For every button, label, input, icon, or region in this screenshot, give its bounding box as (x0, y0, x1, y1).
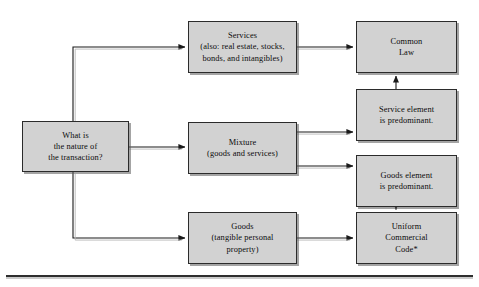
node-common-law-label: Common Law (388, 36, 426, 58)
edge-mixture-to-goods-element (297, 166, 353, 168)
node-goods[interactable]: Goods (tangible personal property) (188, 212, 297, 264)
node-services-label: Services (also: real estate, stocks, bon… (197, 30, 287, 63)
node-common-law[interactable]: Common Law (356, 21, 457, 73)
node-question-label: What is the nature of the transaction? (45, 130, 105, 163)
node-services[interactable]: Services (also: real estate, stocks, bon… (188, 21, 297, 73)
edge-mixture-to-service-element (297, 132, 353, 134)
flowchart-page: What is the nature of the transaction? S… (0, 0, 479, 287)
edge-question-to-goods (73, 172, 185, 240)
edge-question-to-services (73, 47, 185, 121)
node-service-element-label: Service element is predominant. (376, 104, 437, 126)
edge-question-to-mixture (129, 147, 185, 149)
node-question[interactable]: What is the nature of the transaction? (22, 121, 129, 172)
node-ucc[interactable]: Uniform Commercial Code* (356, 212, 457, 264)
node-mixture[interactable]: Mixture (goods and services) (188, 122, 297, 174)
bottom-divider (6, 275, 473, 277)
node-goods-element[interactable]: Goods element is predominant. (356, 155, 457, 207)
node-ucc-label: Uniform Commercial Code* (382, 221, 430, 254)
node-mixture-label: Mixture (goods and services) (204, 137, 281, 159)
edge-goods-to-ucc (297, 238, 353, 240)
node-goods-label: Goods (tangible personal property) (208, 221, 276, 254)
node-service-element[interactable]: Service element is predominant. (356, 89, 457, 141)
edge-services-to-common-law (297, 47, 353, 49)
node-goods-element-label: Goods element is predominant. (377, 170, 437, 192)
